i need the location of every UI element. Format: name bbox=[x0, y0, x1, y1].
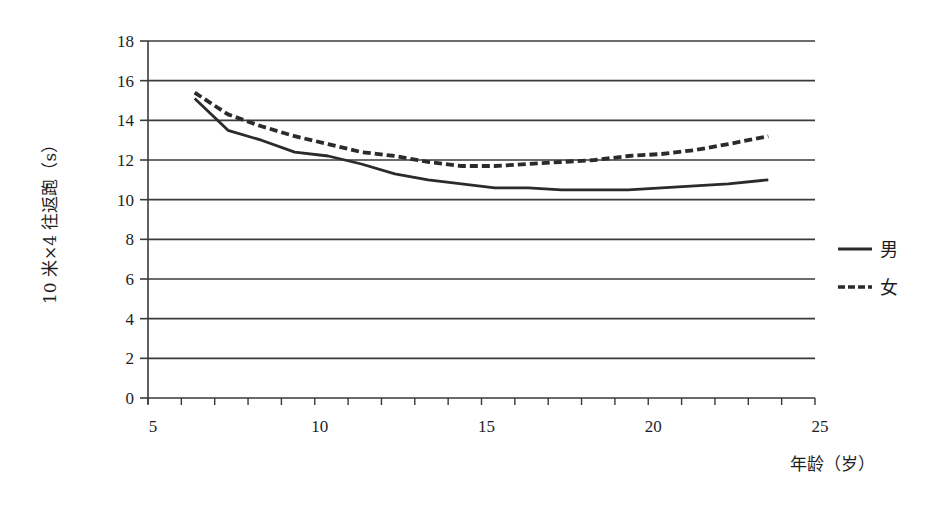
x-tick-label: 15 bbox=[478, 417, 495, 436]
axes bbox=[140, 41, 815, 405]
y-tick-label: 2 bbox=[126, 349, 135, 368]
x-tick-label: 25 bbox=[812, 417, 829, 436]
y-tick-label: 16 bbox=[117, 72, 134, 91]
x-tick-label: 5 bbox=[149, 417, 158, 436]
gridlines bbox=[148, 41, 815, 358]
y-tick-label: 8 bbox=[126, 230, 135, 249]
y-tick-label: 12 bbox=[117, 151, 134, 170]
y-tick-label: 0 bbox=[126, 389, 135, 408]
y-tick-label: 6 bbox=[126, 270, 135, 289]
x-tick-label: 10 bbox=[311, 417, 328, 436]
x-axis-title: 年龄（岁） bbox=[790, 454, 875, 474]
y-tick-label: 10 bbox=[117, 191, 134, 210]
y-axis-title: 10 米×4 往返跑（s） bbox=[40, 136, 60, 304]
y-tick-label: 14 bbox=[117, 111, 135, 130]
y-tick-label: 4 bbox=[126, 310, 135, 329]
legend-label-male: 男 bbox=[880, 239, 898, 260]
legend-label-female: 女 bbox=[880, 277, 898, 298]
series-line-female bbox=[195, 93, 769, 166]
tick-labels: 024681012141618510152025 bbox=[117, 32, 829, 436]
line-chart: 024681012141618510152025 10 米×4 往返跑（s） 年… bbox=[0, 0, 941, 506]
y-tick-label: 18 bbox=[117, 32, 134, 51]
series bbox=[195, 92, 769, 189]
legend: 男 女 bbox=[838, 239, 898, 298]
series-line-male bbox=[195, 99, 769, 190]
x-tick-label: 20 bbox=[645, 417, 662, 436]
